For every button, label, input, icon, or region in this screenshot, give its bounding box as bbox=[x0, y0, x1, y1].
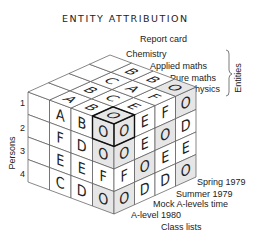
entity-label-applied-maths: Applied maths bbox=[150, 61, 208, 71]
cell-letter: F bbox=[121, 166, 128, 186]
cell-letter: F bbox=[162, 102, 169, 122]
cell-letter: F bbox=[57, 128, 64, 147]
person-label-1: 1 bbox=[20, 98, 25, 108]
time-label-a-level-1980: A-level 1980 bbox=[131, 210, 181, 220]
cell-letter: B bbox=[77, 113, 86, 133]
cell-letter: E bbox=[78, 158, 86, 178]
entities-axis-label: Entities bbox=[233, 63, 243, 93]
person-label-4: 4 bbox=[20, 169, 25, 179]
class-lists-label: Class lists bbox=[161, 222, 202, 232]
cell-letter: E bbox=[56, 150, 64, 170]
time-label-spring-1979: Spring 1979 bbox=[197, 177, 246, 187]
report-card-label: Report card bbox=[140, 34, 187, 44]
entity-attribution-diagram: ENTITY ATTRIBUTION Report card Chemistry… bbox=[0, 0, 254, 242]
person-label-3: 3 bbox=[20, 146, 25, 156]
cell-letter: A bbox=[56, 105, 65, 125]
time-label-summer-1979: Summer 1979 bbox=[176, 189, 233, 199]
entity-label-chemistry: Chemistry bbox=[126, 49, 167, 59]
person-label-2: 2 bbox=[20, 123, 25, 133]
attribution-cube: ABOFDOEEFCDOOEFOOEODFOEEODDOOBAECBFACOBB bbox=[28, 55, 196, 214]
cell-letter: F bbox=[100, 167, 107, 186]
entities-brace bbox=[226, 50, 232, 96]
persons-axis-label: Persons bbox=[7, 136, 17, 170]
diagram-title: ENTITY ATTRIBUTION bbox=[62, 13, 189, 24]
cell-letter: C bbox=[56, 173, 65, 193]
time-label-mock-a-levels: Mock A-levels time bbox=[153, 199, 228, 209]
